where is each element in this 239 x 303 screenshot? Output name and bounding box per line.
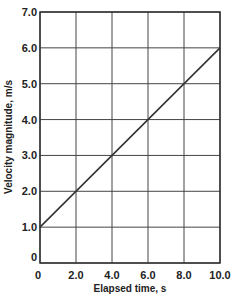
- y-tick-label: 7.0: [22, 6, 37, 18]
- y-tick-label: 5.0: [22, 78, 37, 90]
- y-tick-label: 3.0: [22, 149, 37, 161]
- y-tick-label: 6.0: [22, 42, 37, 54]
- x-tick-label: 10.0: [209, 269, 230, 281]
- x-tick-label: 0: [35, 269, 41, 281]
- y-tick-labels: 01.02.03.04.05.06.07.0: [22, 6, 37, 263]
- y-axis-label: Velocity magnitude, m/s: [3, 80, 14, 194]
- data-series: [40, 48, 220, 227]
- x-tick-label: 8.0: [176, 269, 191, 281]
- x-tick-label: 6.0: [140, 269, 155, 281]
- y-tick-label: 4.0: [22, 114, 37, 126]
- x-tick-labels: 02.04.06.08.010.0: [35, 269, 231, 281]
- series-line: [40, 48, 220, 227]
- y-tick-label: 2.0: [22, 185, 37, 197]
- x-tick-label: 4.0: [104, 269, 119, 281]
- velocity-time-chart: 01.02.03.04.05.06.07.0 02.04.06.08.010.0…: [0, 0, 239, 303]
- x-tick-label: 2.0: [68, 269, 83, 281]
- y-tick-label: 1.0: [22, 221, 37, 233]
- x-axis-label: Elapsed time, s: [94, 283, 167, 294]
- y-tick-label: 0: [31, 251, 37, 263]
